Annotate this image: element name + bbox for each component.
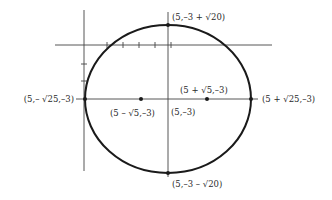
center-label: (5,–3) (171, 107, 195, 117)
vertex-left-label: (5,– √25,–3) (24, 94, 74, 104)
vertex-top-point (166, 23, 170, 27)
focus-right-label: (5 + √5,–3) (180, 85, 228, 95)
focus-left-label: (5 – √5,–3) (110, 108, 155, 118)
vertex-bottom-label: (5,–3 – √20) (172, 179, 222, 189)
focus-left-point (139, 97, 143, 101)
vertex-right-point (249, 97, 253, 101)
vertex-left-point (83, 97, 87, 101)
focus-right-point (205, 97, 209, 101)
vertex-top-label: (5,–3 + √20) (172, 12, 225, 22)
vertex-bottom-point (166, 171, 170, 175)
vertex-right-label: (5 + √25,–3) (262, 94, 315, 104)
ellipse-diagram: (5,– √25,–3) (5 + √25,–3) (5,–3 + √20) (… (0, 0, 332, 200)
